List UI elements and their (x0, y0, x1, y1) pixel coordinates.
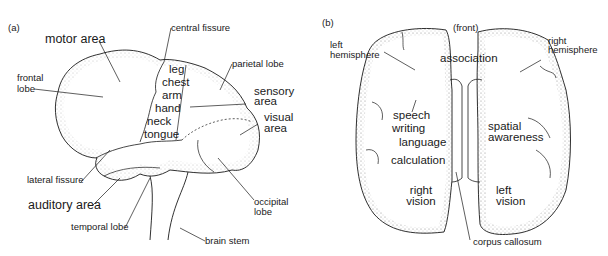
right-hemisphere-label-2: hemisphere (548, 45, 598, 55)
body-map-item: neck (147, 116, 171, 128)
left-hemisphere-label-2: hemisphere (330, 50, 380, 60)
temporal-lobe-label: temporal lobe (71, 222, 129, 232)
sensory-area-label-2: area (254, 96, 277, 108)
lateral-fissure-label: lateral fissure (27, 175, 84, 185)
parietal-lobe-label: parietal lobe (232, 59, 284, 69)
function-item: calculation (391, 155, 445, 167)
function-item: writing (392, 123, 425, 135)
function-item: awareness (488, 132, 544, 144)
panel-a-tag: (a) (8, 23, 20, 33)
function-item: language (399, 137, 446, 149)
visual-area-label-2: area (264, 123, 287, 135)
association-label: association (440, 53, 498, 65)
vision-label: vision (496, 196, 525, 208)
panel-b-tag: (b) (322, 18, 334, 28)
frontal-lobe-label-2: lobe (17, 84, 35, 94)
body-map-item: leg (169, 64, 184, 76)
body-map-item: chest (162, 77, 190, 89)
cut-off-caption (4, 247, 604, 251)
body-map-item: arm (162, 90, 182, 102)
occipital-lobe-label-2: lobe (254, 207, 272, 217)
brain-stem-label: brain stem (205, 236, 249, 246)
front-label: (front) (453, 23, 478, 33)
corpus-callosum-label: corpus callosum (473, 237, 542, 247)
body-map-item: tongue (144, 129, 179, 141)
body-map-item: hand (155, 103, 181, 115)
frontal-lobe-label-1: frontal (17, 73, 43, 83)
motor-area-label: motor area (45, 33, 105, 46)
auditory-area-label: auditory area (28, 199, 101, 212)
vision-label: vision (404, 196, 438, 208)
function-item: speech (393, 110, 430, 122)
central-fissure-label: central fissure (171, 23, 230, 33)
